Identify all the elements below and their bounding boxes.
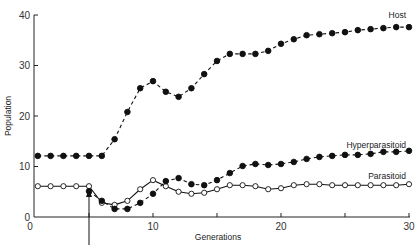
data-point bbox=[304, 156, 310, 162]
data-point bbox=[227, 170, 233, 176]
y-tick-label: 30 bbox=[19, 60, 31, 71]
data-point bbox=[214, 58, 220, 64]
data-point bbox=[304, 32, 310, 38]
x-tick-label: 0 bbox=[27, 221, 33, 232]
data-point bbox=[150, 191, 156, 197]
data-point bbox=[61, 153, 67, 159]
data-point bbox=[329, 153, 335, 159]
data-point bbox=[368, 151, 374, 157]
data-point bbox=[329, 30, 335, 36]
data-point bbox=[73, 153, 79, 159]
data-point bbox=[137, 200, 143, 206]
data-point bbox=[342, 29, 348, 35]
data-point bbox=[355, 27, 361, 33]
x-tick-label: 10 bbox=[147, 221, 159, 232]
data-point bbox=[125, 109, 131, 115]
data-point bbox=[317, 154, 323, 160]
x-axis-title: Generations bbox=[195, 232, 241, 242]
data-point bbox=[330, 183, 335, 188]
data-point bbox=[201, 182, 207, 188]
data-point bbox=[99, 198, 105, 204]
data-point bbox=[74, 184, 79, 189]
data-point bbox=[240, 51, 246, 57]
data-point bbox=[112, 136, 118, 142]
data-point bbox=[176, 189, 181, 194]
data-point bbox=[317, 31, 323, 37]
series-line bbox=[89, 151, 409, 209]
data-point bbox=[253, 51, 259, 57]
data-point bbox=[86, 153, 92, 159]
data-point bbox=[278, 41, 284, 47]
data-point bbox=[214, 177, 220, 183]
data-point bbox=[201, 71, 207, 77]
data-point bbox=[368, 183, 373, 188]
data-point bbox=[266, 187, 271, 192]
data-point bbox=[163, 178, 169, 184]
series-line bbox=[38, 180, 409, 205]
data-point bbox=[406, 148, 412, 154]
data-point bbox=[406, 182, 411, 187]
data-point bbox=[278, 161, 284, 167]
data-point bbox=[253, 161, 259, 167]
data-point bbox=[202, 190, 207, 195]
population-chart: 0102030400102030 Generations Population … bbox=[0, 0, 420, 249]
data-point bbox=[355, 152, 361, 158]
data-point bbox=[227, 183, 232, 188]
series-host bbox=[35, 24, 412, 158]
data-point bbox=[125, 198, 130, 203]
data-point bbox=[355, 183, 360, 188]
series-hyperparasitoid bbox=[86, 148, 412, 212]
data-point bbox=[189, 191, 194, 196]
data-point bbox=[381, 183, 386, 188]
data-point bbox=[265, 48, 271, 54]
data-point bbox=[394, 183, 399, 188]
y-tick-label: 10 bbox=[19, 161, 31, 172]
x-tick-label: 20 bbox=[275, 221, 287, 232]
data-point bbox=[368, 26, 374, 32]
data-point bbox=[291, 183, 296, 188]
data-point bbox=[35, 184, 40, 189]
data-point bbox=[189, 85, 195, 91]
data-point bbox=[381, 25, 387, 31]
data-point bbox=[138, 187, 143, 192]
data-point bbox=[304, 182, 309, 187]
x-tick-label: 30 bbox=[403, 221, 415, 232]
data-point bbox=[48, 184, 53, 189]
data-point bbox=[189, 181, 195, 187]
series-layer bbox=[35, 24, 412, 211]
data-point bbox=[265, 162, 271, 168]
data-point bbox=[291, 36, 297, 42]
series-label-host: Host bbox=[389, 10, 407, 20]
data-point bbox=[176, 94, 182, 100]
y-tick-label: 40 bbox=[19, 10, 31, 21]
data-point bbox=[35, 153, 41, 159]
data-point bbox=[176, 175, 182, 181]
data-point bbox=[240, 183, 245, 188]
data-point bbox=[253, 184, 258, 189]
data-point bbox=[393, 24, 399, 30]
data-point bbox=[317, 182, 322, 187]
axes: 0102030400102030 bbox=[19, 10, 415, 233]
data-point bbox=[112, 206, 118, 212]
data-point bbox=[342, 183, 347, 188]
data-point bbox=[227, 51, 233, 57]
y-axis-title: Population bbox=[3, 96, 13, 136]
data-point bbox=[125, 206, 131, 212]
data-point bbox=[214, 187, 219, 192]
series-label-hyperparasitoid: Hyperparasitoid bbox=[346, 140, 406, 150]
data-point bbox=[278, 186, 283, 191]
data-point bbox=[406, 24, 412, 30]
series-line bbox=[38, 27, 409, 156]
y-tick-label: 20 bbox=[19, 111, 31, 122]
data-point bbox=[137, 85, 143, 91]
data-point bbox=[99, 153, 105, 159]
data-point bbox=[61, 184, 66, 189]
data-point bbox=[163, 89, 169, 95]
data-point bbox=[48, 153, 54, 159]
data-point bbox=[240, 163, 246, 169]
data-point bbox=[342, 152, 348, 158]
data-point bbox=[291, 159, 297, 165]
data-point bbox=[150, 178, 155, 183]
data-point bbox=[150, 78, 156, 84]
series-label-parasitoid: Parasitoid bbox=[368, 171, 406, 181]
